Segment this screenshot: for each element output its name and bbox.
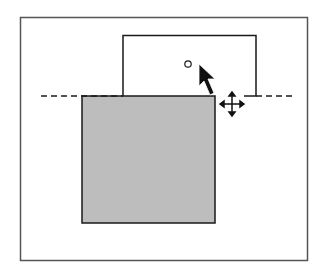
filled-shape[interactable] [82,96,215,223]
diagram-canvas [0,0,319,276]
snap-point-circle[interactable] [185,61,191,67]
